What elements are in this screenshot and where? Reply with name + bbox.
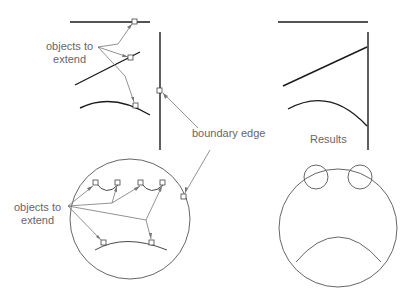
pick-marker (133, 103, 138, 108)
boundary-circle (70, 159, 190, 279)
pick-marker (115, 180, 120, 185)
label-results: Results (310, 133, 347, 146)
pick-marker (181, 194, 186, 199)
before-panel-top (70, 19, 198, 150)
face-circle (279, 169, 397, 287)
label-boundary-edge: boundary edge (192, 127, 265, 140)
pick-marker (149, 240, 154, 245)
before-panel-bottom (68, 150, 210, 279)
arc-result (288, 101, 367, 126)
pick-marker (138, 180, 143, 185)
pick-marker (160, 180, 165, 185)
label-line: objects to (46, 40, 93, 53)
leader-lines (68, 150, 210, 240)
label-line: extend (14, 214, 61, 227)
pick-marker (132, 19, 137, 24)
label-objects-to-extend-bottom: objects to extend (14, 201, 61, 227)
arc-object (80, 101, 150, 115)
results-panel-bottom (279, 165, 397, 287)
label-line: extend (46, 53, 93, 66)
pick-marker (157, 88, 162, 93)
arrowheads (87, 186, 188, 240)
results-panel-top (278, 22, 368, 150)
label-line: objects to (14, 201, 61, 214)
label-objects-to-extend-top: objects to extend (46, 40, 93, 66)
leader-lines (98, 24, 198, 128)
mouth-result-arc (296, 237, 381, 262)
pick-marker (101, 240, 106, 245)
diagonal-result-line (283, 47, 367, 86)
pick-marker (93, 180, 98, 185)
pick-marker (128, 55, 133, 60)
